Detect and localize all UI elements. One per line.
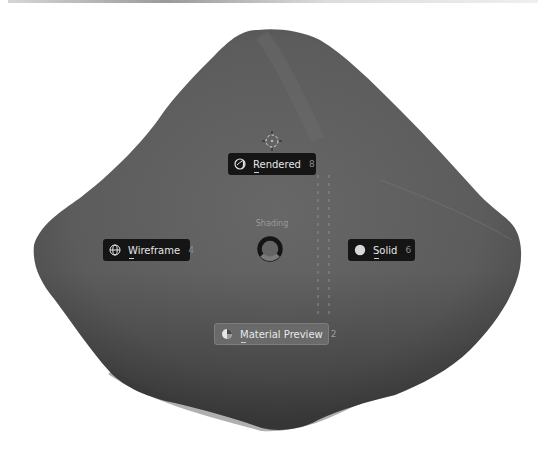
shortcut-key: 6: [405, 245, 411, 255]
pie-item-label: Rendered: [253, 159, 301, 170]
pie-item-material-preview[interactable]: Material Preview 2: [214, 323, 329, 345]
pie-item-label: Material Preview: [240, 329, 323, 340]
pie-item-solid[interactable]: Solid 6: [348, 239, 415, 261]
rock-mesh-viewport-object: [0, 0, 550, 461]
shortcut-key: 8: [309, 159, 315, 169]
pie-item-label: Wireframe: [128, 245, 180, 256]
pie-direction-indicator: [256, 235, 284, 263]
wireframe-shading-icon: [109, 244, 121, 256]
shortcut-key: 2: [331, 329, 337, 339]
shortcut-key: 4: [188, 245, 194, 255]
pie-menu-title: Shading: [252, 219, 292, 228]
pie-item-rendered[interactable]: Rendered 8: [228, 153, 316, 175]
rendered-shading-icon: [234, 158, 246, 170]
material-preview-shading-icon: [221, 328, 233, 340]
solid-shading-icon: [354, 244, 366, 256]
pie-item-label: Solid: [373, 245, 397, 256]
3d-cursor-icon: [262, 131, 282, 151]
pie-item-wireframe[interactable]: Wireframe 4: [103, 239, 190, 261]
